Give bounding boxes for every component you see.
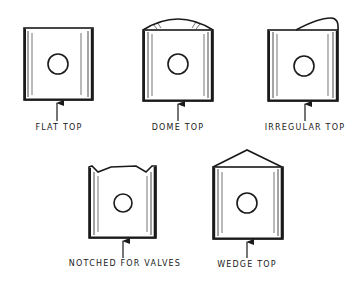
label-wedge-top: WEDGE TOP	[217, 260, 277, 269]
label-dome-top: DOME TOP	[152, 123, 205, 132]
pin-hole-icon	[237, 193, 257, 213]
pin-hole-icon	[48, 54, 68, 74]
pin-hole-icon	[168, 54, 188, 74]
label-flat-top: FLAT TOP	[35, 123, 82, 132]
piston-flat-top: FLAT TOP	[24, 28, 93, 132]
piston-dome-top: DOME TOP	[143, 19, 213, 132]
label-irregular-top: IRREGULAR TOP	[265, 123, 345, 132]
piston-diagram: FLAT TOP DOME TOP IRREGULAR TOP	[0, 0, 359, 293]
piston-irregular-top: IRREGULAR TOP	[265, 18, 345, 132]
piston-notched-for-valves: NOTCHED FOR VALVES	[69, 166, 181, 268]
pin-hole-icon	[114, 194, 132, 212]
pin-hole-icon	[294, 56, 314, 76]
label-notched-for-valves: NOTCHED FOR VALVES	[69, 259, 181, 268]
piston-wedge-top: WEDGE TOP	[213, 150, 283, 269]
